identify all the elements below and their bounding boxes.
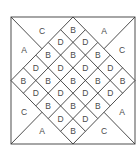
corner-label-top-right-side: C	[119, 45, 125, 55]
corner-label-bottom-right-lower: C	[101, 126, 107, 136]
lattice-cell-label: B	[45, 76, 51, 86]
lattice-cell-label: B	[120, 76, 126, 86]
quilt-block-diagram: BDBDBDBDBDBDBDBDBDBDBDBDB C A A C C A A …	[0, 0, 138, 153]
lattice-cell-label: D	[82, 37, 88, 47]
lattice-cell-label: B	[70, 50, 76, 60]
corner-label-top-left-side: A	[21, 45, 27, 55]
lattice-cell-label: D	[58, 114, 64, 124]
corner-label-bottom-left-lower: A	[39, 126, 45, 136]
lattice-cell-label: B	[70, 76, 76, 86]
lattice-cell-label: B	[70, 25, 76, 35]
corner-diagonal-bottom-right	[104, 112, 135, 144]
lattice-cell-label: B	[21, 76, 27, 86]
lattice-cell-label: D	[107, 63, 113, 73]
lattice-cell-label: B	[95, 76, 101, 86]
lattice-cell-label: B	[70, 101, 76, 111]
corner-diagonal-bottom-left	[11, 112, 42, 144]
lattice-cell-label: D	[82, 114, 88, 124]
lattice-cell-label: D	[107, 88, 113, 98]
lattice-cell-label: D	[82, 63, 88, 73]
lattice-cell-label: D	[58, 88, 64, 98]
lattice-cell-label: D	[33, 63, 39, 73]
lattice-cell-label: B	[45, 50, 51, 60]
lattice-cell-label: D	[33, 88, 39, 98]
lattice-cell-label: D	[58, 63, 64, 73]
corner-diagonal-top-left	[11, 17, 42, 49]
lattice-cell-label: B	[95, 101, 101, 111]
corner-label-bottom-left-side: C	[21, 107, 27, 117]
lattice-cell-label: D	[82, 88, 88, 98]
corner-label-bottom-right-side: A	[119, 107, 125, 117]
lattice-cell-label: B	[70, 126, 76, 136]
corner-label-top-right-upper: A	[101, 26, 107, 36]
corner-diagonal-top-right	[104, 17, 135, 49]
lattice-cell-label: B	[95, 50, 101, 60]
corner-label-top-left-upper: C	[39, 26, 45, 36]
lattice-cell-label: B	[45, 101, 51, 111]
lattice-cell-label: D	[58, 37, 64, 47]
